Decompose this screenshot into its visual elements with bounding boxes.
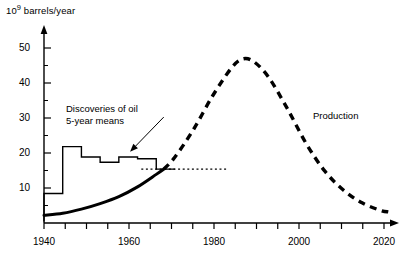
data-series-group	[44, 59, 388, 222]
x-axis-ticks	[44, 223, 384, 229]
production-solid-curve	[44, 169, 164, 215]
axes-group	[41, 25, 399, 229]
oil-discoveries-production-chart: 109 barrels/year 50 40 30 20 10 1940 196…	[0, 0, 403, 270]
x-axis-arrow-icon	[390, 220, 399, 227]
discoveries-annotation-arrow-icon	[130, 117, 164, 152]
y-axis-arrow-icon	[41, 25, 48, 34]
production-projected-series	[164, 59, 389, 212]
chart-plot-area	[0, 0, 403, 270]
y-axis-ticks	[44, 48, 51, 188]
discoveries-step-series	[44, 147, 175, 222]
